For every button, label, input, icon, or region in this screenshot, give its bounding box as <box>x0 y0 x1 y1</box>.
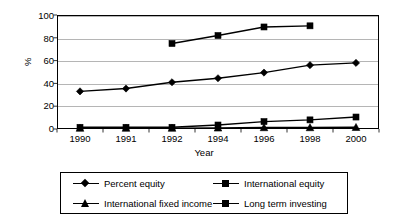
legend-label: Long term investing <box>239 199 327 209</box>
series-1 <box>76 59 359 95</box>
legend-entry-percent-equity[interactable]: Percent equity <box>73 174 165 193</box>
legend-row: International fixed income Long term inv… <box>61 194 347 213</box>
line-chart: 100 80 60 40 20 0 % 1990 1991 1992 1994 … <box>0 0 408 220</box>
legend-entry-international-equity[interactable]: International equity <box>213 174 324 193</box>
legend-label: Percent equity <box>99 179 165 189</box>
legend-entry-international-fixed-income[interactable]: International fixed income <box>73 194 212 213</box>
legend-label: International fixed income <box>99 199 212 209</box>
square-marker-icon <box>213 177 239 191</box>
diamond-marker-icon <box>73 177 99 191</box>
square-marker-icon <box>213 197 239 211</box>
legend: Percent equity International equity Inte… <box>60 172 348 214</box>
legend-entry-long-term-investing[interactable]: Long term investing <box>213 194 327 213</box>
series-4 <box>169 23 313 47</box>
y-axis-tickmarks <box>54 15 58 129</box>
legend-row: Percent equity International equity <box>61 174 347 193</box>
triangle-marker-icon <box>73 197 99 211</box>
legend-label: International equity <box>239 179 324 189</box>
